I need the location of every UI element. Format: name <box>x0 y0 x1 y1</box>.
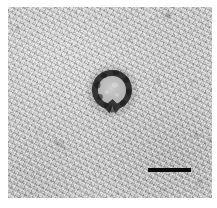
micrograph-image-field <box>8 7 212 198</box>
speck-center-left <box>62 57 70 63</box>
scale-bar <box>148 168 191 172</box>
speck-lower-right-2 <box>194 177 205 187</box>
streak-lower-left <box>49 136 70 154</box>
speck-bottom-mid <box>116 172 125 178</box>
specimen-particle <box>82 61 142 123</box>
speck-lower-right <box>191 131 202 140</box>
speck-right-edge <box>192 95 200 101</box>
speck-upper-right <box>162 11 173 22</box>
speck-right-mid <box>153 77 162 86</box>
micrograph-figure <box>0 0 217 208</box>
